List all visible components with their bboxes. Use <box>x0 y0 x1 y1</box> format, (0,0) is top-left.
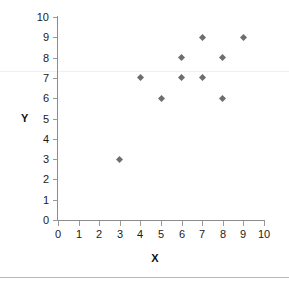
y-tick-label-10: 10 <box>27 12 49 23</box>
x-tick-label-10: 10 <box>252 229 276 240</box>
data-point <box>199 34 206 41</box>
scan-artifact-rule-bottom <box>0 277 289 278</box>
x-tick-3 <box>120 221 121 226</box>
x-tick-8 <box>223 221 224 226</box>
y-tick-label-8: 8 <box>27 53 49 64</box>
y-tick-label-7: 7 <box>27 73 49 84</box>
y-tick-label-2: 2 <box>27 174 49 185</box>
x-tick-2 <box>99 221 100 226</box>
scatter-plot-figure: 012345678910 012345678910 Y X <box>0 0 289 285</box>
x-axis-title: X <box>0 252 289 264</box>
y-tick-label-5: 5 <box>27 114 49 125</box>
x-tick-9 <box>243 221 244 226</box>
x-tick-5 <box>161 221 162 226</box>
data-point <box>199 74 206 81</box>
data-point <box>219 95 226 102</box>
data-point <box>219 54 226 61</box>
plot-data-area <box>58 17 264 220</box>
x-tick-7 <box>202 221 203 226</box>
y-tick-label-3: 3 <box>27 154 49 165</box>
x-tick-4 <box>140 221 141 226</box>
data-point <box>137 74 144 81</box>
y-tick-label-0: 0 <box>27 215 49 226</box>
y-tick-label-6: 6 <box>27 93 49 104</box>
data-point <box>240 34 247 41</box>
data-point <box>178 74 185 81</box>
x-tick-6 <box>182 221 183 226</box>
x-tick-1 <box>79 221 80 226</box>
y-tick-label-9: 9 <box>27 32 49 43</box>
data-point <box>158 95 165 102</box>
x-tick-0 <box>58 221 59 226</box>
data-point <box>116 156 123 163</box>
y-axis-title: Y <box>21 112 28 124</box>
x-tick-10 <box>264 221 265 226</box>
y-tick-label-4: 4 <box>27 134 49 145</box>
y-tick-label-1: 1 <box>27 195 49 206</box>
data-point <box>178 54 185 61</box>
